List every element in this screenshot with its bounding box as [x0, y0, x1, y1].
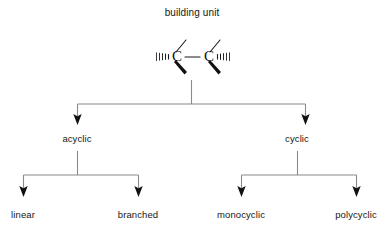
- node-label-branched[interactable]: branched: [118, 209, 158, 220]
- diagram-canvas: building unit C: [0, 0, 385, 231]
- node-label-monocyclic[interactable]: monocyclic: [217, 209, 265, 220]
- connector-level-2-right: [0, 0, 385, 231]
- node-label-polycyclic[interactable]: polycyclic: [335, 209, 377, 220]
- node-label-linear[interactable]: linear: [11, 209, 35, 220]
